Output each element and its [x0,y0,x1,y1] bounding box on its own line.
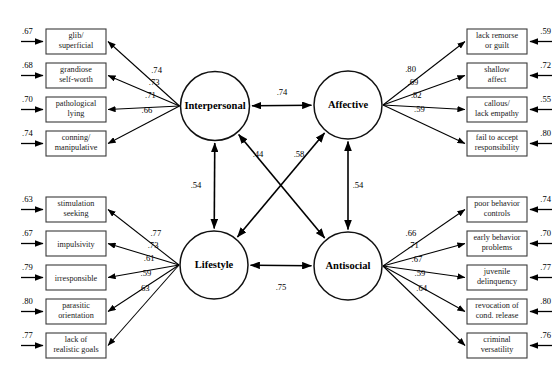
indicator-label: controls [484,209,510,218]
indicator-label: callous/ [484,99,510,108]
double-headed-arrow [214,143,215,229]
indicator-label: juvenile [483,267,511,276]
loading-coefficient: .59 [415,268,426,278]
indicator-label: lying [68,109,85,118]
factor-label: Lifestyle [195,259,234,270]
residual-coefficient: .67 [22,228,33,238]
residual-coefficient: .63 [22,194,33,204]
indicator-label: criminal [483,335,511,344]
loading-coefficient: .66 [142,105,153,115]
indicator-label: self-worth [59,75,93,84]
indicator-label: irresponsible [55,274,98,283]
indicator-label: grandiose [60,65,92,74]
loading-coefficient: .59 [414,104,425,114]
indicator-label: lack empathy [475,109,520,118]
residual-coefficient: .67 [22,26,33,36]
loading-coefficient: .63 [139,283,150,293]
correlation-coefficient: .75 [276,282,287,292]
indicator-label: realistic goals [53,345,98,354]
factor-loading-arrow [108,42,180,107]
residual-coefficient: .70 [22,94,33,104]
factor-label: Interpersonal [184,100,245,111]
sem-path-diagram: glib/superficial.74.67grandioseself-wort… [0,0,559,380]
loading-coefficient: .77 [150,228,161,238]
residual-coefficient: .70 [540,228,551,238]
loading-coefficient: .64 [416,283,427,293]
factor-loading-arrow [383,76,465,106]
indicator-label: delinquency [477,277,518,286]
indicator-label: pathological [56,99,97,108]
indicator-label: stimulation [58,199,95,208]
indicator-label: versatility [481,345,515,354]
residual-coefficient: .55 [540,94,551,104]
indicator-label: early behavior [473,233,520,242]
loading-coefficient: .73 [149,77,160,87]
latent-factor-affective: Affective [314,71,382,139]
residual-coefficient: .80 [540,296,551,306]
residual-coefficient: .76 [540,330,551,340]
correlation-affective-antisocial: .54 [348,142,364,230]
indicator-label: revocation of [475,301,519,310]
residual-coefficient: .80 [22,296,33,306]
indicator-label: responsibility [475,143,520,152]
indicator-label: lack of [65,335,88,344]
residual-coefficient: .59 [540,26,551,36]
indicator-label: seeking [63,209,88,218]
factor-loading-arrow [383,210,465,267]
factor-loading-arrow [383,42,465,106]
correlation-coefficient: .74 [277,87,288,97]
indicator-label: impulsivity [57,240,95,249]
indicator-label: poor behavior [474,199,520,208]
residual-coefficient: .77 [540,262,551,272]
residual-coefficient: .74 [22,128,33,138]
indicator-label: lack remorse [476,31,518,40]
loading-coefficient: .61 [144,253,155,263]
correlation-coefficient: .44 [253,149,264,159]
indicator-label: or guilt [485,41,510,50]
indicator-label: conning/ [62,133,91,142]
latent-factor-lifestyle: Lifestyle [180,231,248,299]
loading-coefficient: .67 [412,254,423,264]
correlation-interpersonal-lifestyle: .54 [191,143,215,229]
residual-coefficient: .79 [22,262,33,272]
factor-label: Affective [328,99,369,110]
indicator-label: fail to accept [476,133,519,142]
indicator-label: orientation [58,311,93,320]
correlation-coefficient: .58 [294,149,305,159]
double-headed-arrow [239,134,325,237]
loading-coefficient: .73 [148,240,159,250]
loading-coefficient: .69 [408,77,419,87]
residual-coefficient: .72 [540,60,551,70]
factor-label: Antisocial [326,260,371,271]
correlation-interpersonal-affective: .74 [252,87,312,106]
indicator-label: shallow [484,65,510,74]
loading-coefficient: .71 [145,90,156,100]
residual-coefficient: .77 [22,330,33,340]
indicator-label: superficial [59,41,94,50]
indicator-label: affect [488,75,507,84]
loading-coefficient: .59 [141,268,152,278]
loading-coefficient: .80 [405,64,416,74]
correlation-coefficient: .54 [353,180,364,190]
factor-loading-arrow [383,244,465,267]
loading-coefficient: .82 [411,90,422,100]
indicator-interpersonal-3: pathologicallying.71.70 [21,90,180,122]
indicator-lifestyle-3: irresponsible.61.79 [21,253,179,290]
indicator-label: parasitic [62,301,90,310]
loading-coefficient: .66 [406,228,417,238]
loading-coefficient: .74 [151,65,162,75]
factor-loading-arrow [108,76,180,107]
loading-coefficient: .71 [408,240,419,250]
correlation-lifestyle-antisocial: .75 [250,265,311,292]
latent-factor-antisocial: Antisocial [314,232,382,300]
correlation-coefficient: .54 [191,180,202,190]
indicator-label: problems [482,243,512,252]
indicator-label: glib/ [68,31,84,40]
residual-coefficient: .74 [540,194,551,204]
indicator-label: cond. release [476,311,519,320]
indicator-label: manipulative [55,143,98,152]
residual-coefficient: .80 [540,128,551,138]
residual-coefficient: .68 [22,60,33,70]
correlation-interpersonal-antisocial: .44 [239,134,325,237]
latent-factor-interpersonal: Interpersonal [181,72,250,141]
